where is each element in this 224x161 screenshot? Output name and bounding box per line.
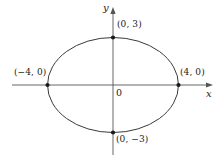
vertex-point-left <box>45 83 49 87</box>
point-label-bottom: (0, −3) <box>116 135 148 144</box>
y-axis-label: y <box>103 3 109 13</box>
vertex-point-top <box>111 35 115 39</box>
plot-canvas <box>0 0 224 161</box>
point-label-top: (0, 3) <box>117 20 142 29</box>
ellipse-figure: y x 0 (0, 3) (4, 0) (−4, 0) (0, −3) <box>0 0 224 161</box>
y-axis-arrowhead <box>110 7 115 14</box>
x-axis-arrowhead <box>206 82 213 87</box>
point-label-right: (4, 0) <box>180 68 205 77</box>
point-label-left: (−4, 0) <box>14 68 46 77</box>
x-axis-label: x <box>206 89 212 99</box>
origin-label: 0 <box>116 88 122 98</box>
vertex-point-right <box>176 83 180 87</box>
vertex-point-bottom <box>111 130 115 134</box>
